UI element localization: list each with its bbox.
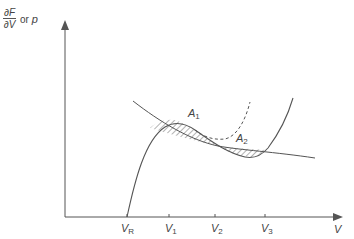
pressure-symbol: p xyxy=(32,13,38,25)
tick-label-vr: VR xyxy=(121,223,134,236)
y-axis-arrow-icon xyxy=(61,20,69,30)
or-text: or p xyxy=(20,13,38,25)
y-axis xyxy=(61,20,69,217)
y-axis-label: ∂F ∂V or p xyxy=(3,7,38,30)
x-axis-arrow-icon xyxy=(333,213,343,221)
tick-label-v1: V1 xyxy=(165,223,177,236)
tick-label-v3: V3 xyxy=(261,223,273,236)
partial-derivative-fraction: ∂F ∂V xyxy=(3,7,16,30)
x-axis xyxy=(65,213,343,221)
diagram-canvas xyxy=(0,0,354,239)
denominator: ∂V xyxy=(4,19,16,30)
area-label-a1: A1 xyxy=(188,108,200,121)
cubic-isotherm xyxy=(127,98,293,217)
x-axis-label: V xyxy=(334,224,341,235)
tick-label-v2: V2 xyxy=(211,223,223,236)
numerator: ∂F xyxy=(3,7,16,19)
area-a1-hatch xyxy=(150,120,218,146)
area-label-a2: A2 xyxy=(236,133,248,146)
